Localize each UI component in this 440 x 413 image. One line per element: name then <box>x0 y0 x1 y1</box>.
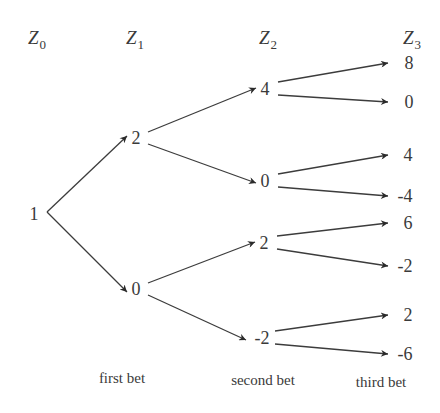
edge-z1-to-z2-3 <box>148 295 246 340</box>
node-z2-3: -2 <box>255 328 270 348</box>
edge-z2-to-z3-4 <box>277 223 388 236</box>
node-z1-0: 2 <box>132 128 141 148</box>
edge-z0-to-z1-1 <box>47 212 127 292</box>
node-z2-0: 4 <box>261 79 270 99</box>
edge-z2-to-z3-5 <box>277 249 388 266</box>
column-header-z2: Z2 <box>259 27 277 52</box>
column-header-z1: Z1 <box>126 27 144 52</box>
edge-z1-to-z2-2 <box>148 242 255 283</box>
node-z1-1: 0 <box>132 279 141 299</box>
node-z3-3: -4 <box>398 186 413 206</box>
node-z3-0: 8 <box>405 53 414 73</box>
binary-tree-diagram: Z0Z1Z2Z3 120402-2804-46-22-6 first betse… <box>0 0 440 413</box>
edge-z2-to-z3-3 <box>278 187 388 196</box>
edge-z2-to-z3-1 <box>278 95 388 102</box>
edge-z2-to-z3-7 <box>275 344 388 354</box>
edge-z2-to-z3-6 <box>275 315 388 331</box>
edge-z1-to-z2-1 <box>148 144 256 183</box>
node-z3-6: 2 <box>404 305 413 325</box>
bet-label-2: second bet <box>231 372 296 388</box>
node-z3-4: 6 <box>404 213 413 233</box>
node-z2-1: 0 <box>261 171 270 191</box>
bet-label-1: first bet <box>99 370 146 386</box>
edge-z2-to-z3-0 <box>278 63 388 82</box>
node-z3-2: 4 <box>404 145 413 165</box>
node-z3-7: -6 <box>398 344 413 364</box>
column-header-z3: Z3 <box>403 27 421 52</box>
node-z3-1: 0 <box>405 92 414 112</box>
bet-label-3: third bet <box>356 374 407 390</box>
edge-z0-to-z1-0 <box>47 136 127 212</box>
edge-z2-to-z3-2 <box>278 155 388 174</box>
node-z0: 1 <box>30 204 39 224</box>
node-z2-2: 2 <box>260 233 269 253</box>
column-header-z0: Z0 <box>28 27 46 52</box>
node-z3-5: -2 <box>398 256 413 276</box>
edge-z1-to-z2-0 <box>148 88 256 132</box>
